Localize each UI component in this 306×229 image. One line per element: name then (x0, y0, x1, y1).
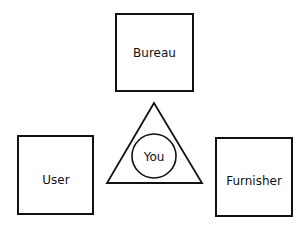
user-node: User (18, 136, 93, 214)
you-label: You (143, 150, 165, 164)
diagram-canvas: Bureau User Furnisher You (0, 0, 306, 229)
furnisher-node: Furnisher (216, 138, 292, 216)
triangle-shape (107, 103, 202, 183)
user-label: User (42, 173, 69, 187)
bureau-node: Bureau (116, 14, 193, 91)
you-node: You (107, 103, 202, 183)
bureau-label: Bureau (133, 46, 176, 60)
furnisher-label: Furnisher (226, 174, 282, 188)
